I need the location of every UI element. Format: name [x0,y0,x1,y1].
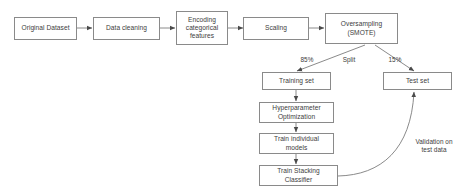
node-label-data-cleaning: Data cleaning [106,24,147,32]
node-label-hyperparameter: Hyperparameter Optimization [272,104,320,120]
edge-label-split-15: 15% [383,48,407,64]
node-label-train-stacking: Train Stacking Classifier [277,167,320,183]
node-data-cleaning[interactable]: Data cleaning [93,17,160,40]
flowchart-canvas: Original Dataset Data cleaning Encoding … [0,0,464,192]
node-train-stacking-classifier[interactable]: Train Stacking Classifier [259,165,338,186]
node-scaling[interactable]: Scaling [243,17,309,40]
node-test-set[interactable]: Test set [383,72,452,90]
node-oversampling-smote[interactable]: Oversampling (SMOTE) [325,13,398,44]
edge-label-split-85: 85% [295,48,319,64]
node-original-dataset[interactable]: Original Dataset [14,17,77,40]
node-label-test-set: Test set [406,77,429,85]
node-hyperparameter-optimization[interactable]: Hyperparameter Optimization [259,102,334,123]
node-label-encoding: Encoding categorical features [186,16,218,41]
node-label-scaling: Scaling [265,24,287,32]
node-label-original-dataset: Original Dataset [21,24,69,32]
node-label-oversampling: Oversampling (SMOTE) [341,20,382,36]
edge-validation-curve [338,92,414,176]
edge-label-split: Split [337,48,361,64]
node-train-individual-models[interactable]: Train individual models [259,133,334,154]
node-label-train-individual: Train individual models [274,135,319,151]
node-label-training-set: Training set [279,77,314,85]
node-encoding-categorical-features[interactable]: Encoding categorical features [176,11,228,45]
edge-label-validation-on-test-data: Validation on test data [406,130,462,155]
node-training-set[interactable]: Training set [262,72,331,90]
